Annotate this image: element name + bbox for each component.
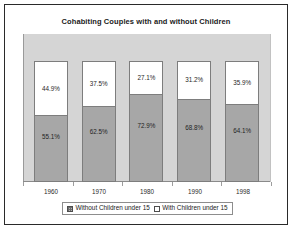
x-axis-tick-label: 1970	[82, 187, 116, 197]
plot-area: 44.9%55.1%37.5%62.5%27.1%72.9%31.2%68.8%…	[23, 34, 271, 182]
bar-value-label: 35.9%	[233, 80, 251, 86]
x-axis-tick-label: 1980	[130, 187, 164, 197]
bar-segment-with-children[interactable]: 31.2%	[177, 61, 211, 99]
bar-group[interactable]: 27.1%72.9%	[129, 61, 163, 182]
axis-tick	[271, 182, 272, 186]
bars-layer: 44.9%55.1%37.5%62.5%27.1%72.9%31.2%68.8%…	[23, 34, 270, 182]
legend-label: Without Children under 15	[76, 205, 150, 211]
chart-title: Cohabiting Couples with and without Chil…	[5, 17, 287, 26]
bar-segment-without-children[interactable]: 55.1%	[34, 115, 68, 182]
bar-value-label: 64.1%	[233, 128, 251, 134]
axis-tick	[122, 182, 123, 186]
x-axis-tick-label: 1960	[34, 187, 68, 197]
bar-value-label: 68.8%	[185, 125, 203, 131]
bar-value-label: 62.5%	[90, 129, 108, 135]
legend-entry[interactable]: Without Children under 15	[67, 205, 150, 211]
hatch-square-icon	[67, 206, 73, 212]
bar-group[interactable]: 31.2%68.8%	[177, 61, 211, 182]
bar-segment-with-children[interactable]: 37.5%	[82, 61, 116, 106]
bar-segment-without-children[interactable]: 68.8%	[177, 99, 211, 182]
chart-legend: Without Children under 15With Children u…	[62, 202, 233, 215]
bar-segment-with-children[interactable]: 27.1%	[129, 61, 163, 94]
bar-value-label: 27.1%	[138, 75, 156, 81]
bar-value-label: 31.2%	[185, 77, 203, 83]
bar-segment-without-children[interactable]: 64.1%	[225, 104, 259, 182]
legend-entry[interactable]: With Children under 15	[154, 205, 228, 211]
axis-tick	[23, 182, 24, 186]
x-axis-tick-label: 1990	[178, 187, 212, 197]
bar-group[interactable]: 37.5%62.5%	[82, 61, 116, 182]
axis-tick	[172, 182, 173, 186]
axis-tick-layer	[23, 182, 271, 186]
bar-group[interactable]: 44.9%55.1%	[34, 61, 68, 182]
bar-value-label: 55.1%	[42, 134, 60, 140]
legend-label: With Children under 15	[162, 205, 227, 211]
bar-segment-with-children[interactable]: 35.9%	[225, 61, 259, 104]
axis-tick	[221, 182, 222, 186]
x-axis-labels: 19601970198019901998	[23, 187, 271, 197]
bar-segment-without-children[interactable]: 72.9%	[129, 94, 163, 182]
bar-segment-without-children[interactable]: 62.5%	[82, 106, 116, 182]
chart-frame: Cohabiting Couples with and without Chil…	[4, 4, 288, 225]
bar-segment-with-children[interactable]: 44.9%	[34, 61, 68, 115]
bar-value-label: 37.5%	[90, 81, 108, 87]
axis-tick	[73, 182, 74, 186]
x-axis-tick-label: 1998	[226, 187, 260, 197]
bar-group[interactable]: 35.9%64.1%	[225, 61, 259, 182]
bar-value-label: 72.9%	[138, 123, 156, 129]
bar-value-label: 44.9%	[42, 86, 60, 92]
empty-square-icon	[154, 206, 160, 212]
